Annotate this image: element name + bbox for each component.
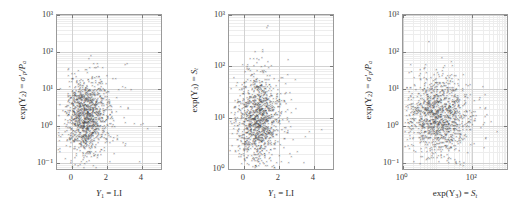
data-point: × [437, 122, 440, 125]
data-point: × [260, 83, 263, 86]
data-point: × [88, 105, 91, 108]
data-point: × [109, 117, 112, 120]
data-point: × [261, 110, 264, 113]
minor-gridline-v [432, 15, 433, 169]
data-point: × [68, 85, 71, 88]
data-point: × [248, 145, 251, 148]
data-point: × [261, 149, 264, 152]
y-tick-label: 10⁻¹ [383, 157, 399, 167]
data-point: × [84, 120, 87, 123]
data-point: × [91, 110, 94, 113]
data-point: × [88, 118, 91, 121]
data-point: × [124, 142, 127, 145]
data-point: × [245, 147, 248, 150]
minor-gridline-v [427, 15, 428, 169]
y-tick-mark [229, 66, 232, 67]
minor-gridline-v [489, 15, 490, 169]
data-point: × [86, 116, 89, 119]
minor-gridline-v [467, 15, 468, 169]
x-tick-mark [472, 15, 473, 18]
data-point: × [254, 111, 257, 114]
data-point: × [260, 107, 263, 110]
data-point: × [246, 104, 249, 107]
data-point: × [263, 111, 266, 114]
data-point: × [99, 119, 102, 122]
data-point: × [97, 111, 100, 114]
data-point: × [258, 108, 261, 111]
y-tick-label: 10¹ [214, 112, 225, 122]
data-point: × [253, 140, 256, 143]
data-point: × [258, 108, 261, 111]
data-point: × [73, 110, 76, 113]
data-point: × [251, 109, 254, 112]
data-point: × [100, 85, 103, 88]
data-point: × [238, 147, 241, 150]
y-tick-label: 10³ [42, 9, 53, 19]
data-point: × [259, 146, 262, 149]
data-point: × [85, 118, 88, 121]
data-point: × [84, 121, 87, 124]
data-point: × [252, 95, 255, 98]
data-point: × [259, 109, 262, 112]
data-point: × [474, 117, 477, 120]
data-point: × [81, 79, 84, 82]
data-point: × [442, 109, 445, 112]
y-tick-label: 10⁰ [387, 120, 400, 130]
data-point: × [259, 134, 262, 137]
data-point: × [77, 117, 80, 120]
data-point: × [92, 154, 95, 157]
data-point: × [259, 95, 262, 98]
data-point: × [414, 117, 417, 120]
data-point: × [102, 111, 105, 114]
data-point: × [256, 108, 259, 111]
data-point: × [81, 118, 84, 121]
data-point: × [86, 85, 89, 88]
data-point: × [265, 83, 268, 86]
data-point: × [84, 154, 87, 157]
data-point: × [77, 85, 80, 88]
data-point: × [408, 147, 411, 150]
data-point: × [90, 120, 93, 123]
data-point: × [258, 112, 261, 115]
data-point: × [449, 80, 452, 83]
x-tick-mark [403, 15, 404, 18]
data-point: × [260, 111, 263, 114]
data-point: × [98, 118, 101, 121]
data-point: × [73, 111, 76, 114]
x-tick-mark [142, 15, 143, 18]
data-point: × [82, 84, 85, 87]
minor-gridline-v [454, 15, 455, 169]
data-point: × [270, 89, 273, 92]
data-point: × [110, 116, 113, 119]
data-point: × [85, 116, 88, 119]
data-point: × [101, 120, 104, 123]
data-point: × [78, 116, 81, 119]
data-point: × [246, 108, 249, 111]
data-point: × [262, 89, 265, 92]
data-point: × [82, 119, 85, 122]
major-gridline-h [403, 163, 507, 164]
data-point: × [247, 140, 250, 143]
data-point: × [440, 105, 443, 108]
data-point: × [254, 94, 257, 97]
data-point: × [100, 148, 103, 151]
data-point: × [437, 73, 440, 76]
data-point: × [246, 98, 249, 101]
data-point: × [90, 146, 93, 149]
data-point: × [98, 116, 101, 119]
data-point: × [272, 164, 275, 167]
data-point: × [438, 142, 441, 145]
data-point: × [95, 116, 98, 119]
data-point: × [258, 98, 261, 101]
data-point: × [443, 118, 446, 121]
data-point: × [265, 97, 268, 100]
data-point: × [249, 96, 252, 99]
data-point: × [260, 140, 263, 143]
data-point: × [268, 104, 271, 107]
data-point: × [267, 97, 270, 100]
data-point: × [265, 111, 268, 114]
data-point: × [229, 149, 232, 152]
data-point: × [255, 61, 258, 64]
data-point: × [78, 121, 81, 124]
data-point: × [249, 105, 252, 108]
